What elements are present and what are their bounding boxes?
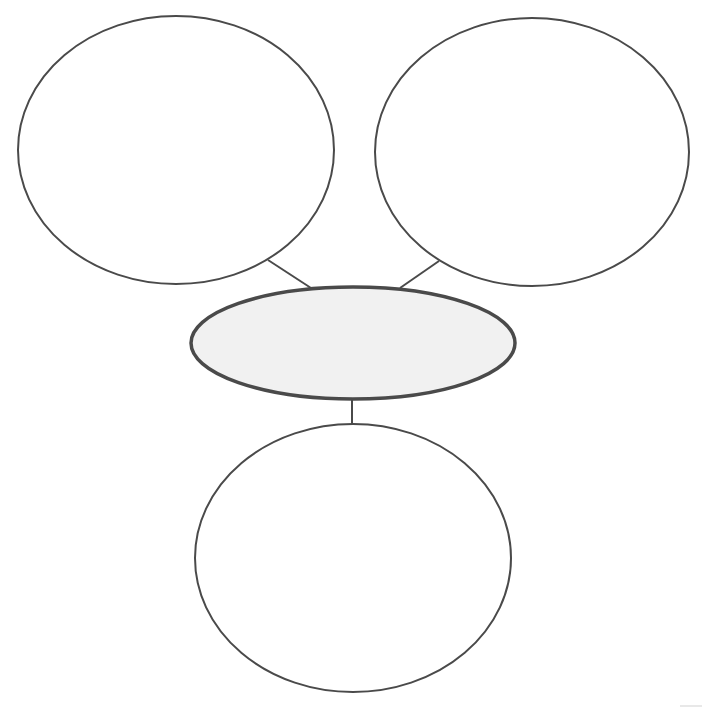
page-corner-mark <box>680 705 702 711</box>
node-bottom <box>195 424 511 692</box>
edge-top-right-to-center <box>400 261 439 288</box>
node-center <box>191 287 515 399</box>
concept-map-diagram <box>0 0 706 711</box>
edge-top-left-to-center <box>268 260 311 288</box>
node-top-left <box>18 16 334 284</box>
node-top-right <box>375 18 689 286</box>
